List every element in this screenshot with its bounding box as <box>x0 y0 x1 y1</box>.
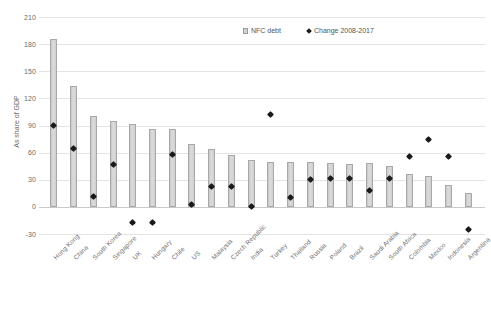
x-tick-label-mexico: Mexico <box>427 241 447 261</box>
x-tick-label-poland: Poland <box>328 241 348 261</box>
x-tick-label-russia: Russia <box>308 242 327 261</box>
x-tick-label-china: China <box>72 244 89 261</box>
x-tick-label-uk: UK <box>131 249 142 260</box>
x-axis: Hong KongChinaSouth KoreaSingaporeUKHung… <box>0 0 491 322</box>
nfc-debt-chart: As share of GDP 2101801501209060300-30 N… <box>0 0 491 322</box>
x-tick-label-us: US <box>190 249 201 260</box>
x-tick-label-chile: Chile <box>170 245 186 261</box>
x-tick-label-india: India <box>249 246 264 261</box>
x-tick-label-hungary: Hungary <box>150 238 173 261</box>
x-tick-label-brazil: Brazil <box>348 244 365 261</box>
x-tick-label-turkey: Turkey <box>269 242 288 261</box>
x-tick-label-thailand: Thailand <box>289 238 312 261</box>
